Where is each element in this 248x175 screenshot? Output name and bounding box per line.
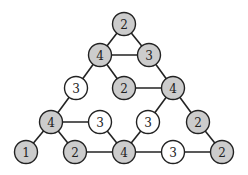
graph-node-empty: 3 — [89, 111, 112, 134]
node-label: 4 — [169, 82, 177, 96]
node-label: 3 — [144, 116, 152, 130]
graph-node-filled: 4 — [89, 44, 112, 67]
graph-node-filled: 4 — [113, 141, 136, 164]
node-label: 2 — [120, 82, 128, 96]
node-label: 3 — [72, 82, 80, 96]
graph-node-empty: 3 — [65, 77, 88, 100]
node-label: 2 — [218, 146, 226, 160]
node-label: 3 — [96, 116, 104, 130]
graph-node-filled: 2 — [113, 77, 136, 100]
graph-node-filled: 2 — [211, 141, 234, 164]
graph-node-filled: 2 — [113, 13, 136, 36]
nodes-layer: 243324433212432 — [15, 13, 234, 164]
graph-node-filled: 3 — [138, 44, 161, 67]
node-label: 4 — [96, 49, 104, 63]
graph-node-filled: 4 — [40, 111, 63, 134]
node-label: 2 — [71, 146, 79, 160]
node-label: 1 — [22, 146, 30, 160]
node-label: 2 — [194, 116, 202, 130]
graph-node-empty: 3 — [162, 141, 185, 164]
node-label: 4 — [47, 116, 55, 130]
graph-node-filled: 2 — [187, 111, 210, 134]
node-label: 4 — [120, 146, 128, 160]
graph-node-filled: 2 — [64, 141, 87, 164]
node-label: 3 — [169, 146, 177, 160]
graph-node-filled: 1 — [15, 141, 38, 164]
graph-node-filled: 4 — [162, 77, 185, 100]
node-label: 2 — [120, 18, 128, 32]
node-graph: 243324433212432 — [0, 0, 248, 175]
node-label: 3 — [145, 49, 153, 63]
graph-node-empty: 3 — [137, 111, 160, 134]
